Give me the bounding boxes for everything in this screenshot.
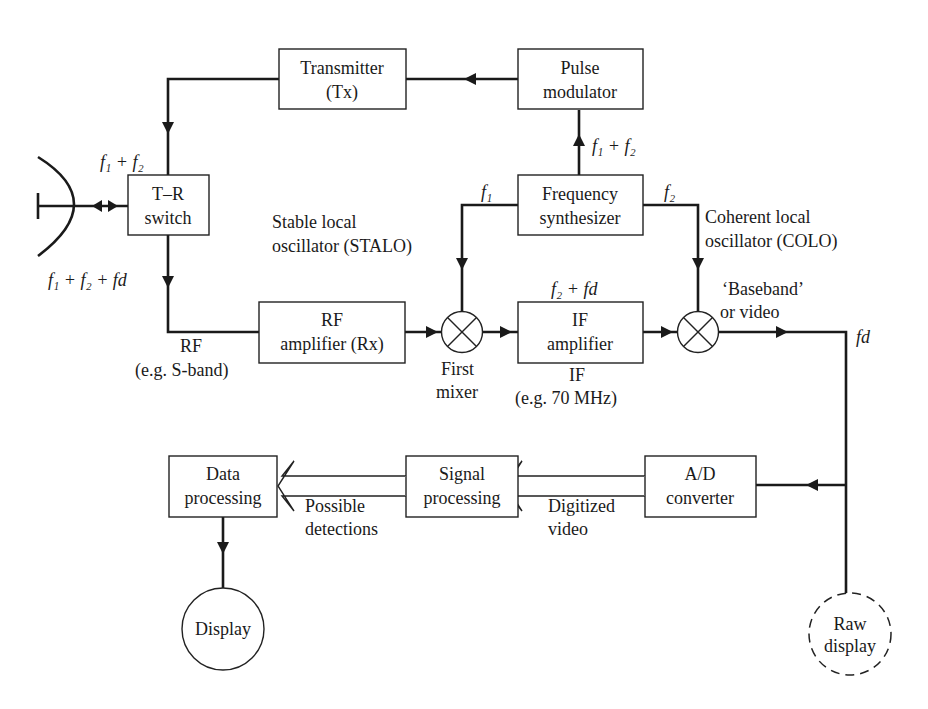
- label-mixer-line1: First: [441, 359, 474, 379]
- first-mixer-icon: [442, 312, 483, 353]
- svg-text:A/D: A/D: [685, 464, 716, 484]
- svg-text:synthesizer: synthesizer: [540, 208, 621, 228]
- raw-display-circle: Raw display: [809, 593, 891, 675]
- label-tx-frequency: f₁ + f₂: [100, 152, 144, 172]
- svg-text:Frequency: Frequency: [542, 184, 618, 204]
- label-f2: f₂: [664, 182, 675, 202]
- svg-text:Display: Display: [195, 619, 251, 639]
- label-if-line1: IF: [569, 365, 585, 385]
- svg-text:RF: RF: [321, 310, 343, 330]
- label-detections-line1: Possible: [305, 496, 365, 516]
- label-synth-frequency: f₁ + f₂: [592, 136, 636, 156]
- display-circle: Display: [182, 588, 264, 670]
- signal-processing-block: Signal processing: [406, 456, 518, 517]
- label-colo-line1: Coherent local: [705, 207, 810, 227]
- svg-text:display: display: [824, 636, 876, 656]
- second-mixer-icon: [678, 312, 719, 353]
- svg-text:IF: IF: [572, 310, 588, 330]
- label-f1: f₁: [481, 182, 492, 202]
- svg-text:processing: processing: [185, 488, 262, 508]
- label-if-frequency: f₂ + fd: [551, 279, 598, 299]
- pulse-modulator-block: Pulse modulator: [518, 49, 643, 109]
- svg-text:switch: switch: [145, 208, 192, 228]
- svg-text:Pulse: Pulse: [560, 58, 599, 78]
- label-stalo-line1: Stable local: [272, 212, 356, 232]
- label-doppler: fd: [856, 327, 871, 347]
- label-mixer-line2: mixer: [436, 382, 478, 402]
- label-rx-frequency: f₁ + f₂ + fd: [48, 270, 128, 290]
- rf-amplifier-block: RF amplifier (Rx): [259, 302, 405, 363]
- svg-text:T–R: T–R: [152, 184, 184, 204]
- svg-text:Data: Data: [206, 464, 240, 484]
- label-stalo-line2: oscillator (STALO): [272, 236, 412, 257]
- label-baseband-line2: or video: [720, 302, 779, 322]
- label-if-line2: (e.g. 70 MHz): [515, 388, 617, 409]
- svg-text:Signal: Signal: [439, 464, 485, 484]
- svg-text:converter: converter: [666, 488, 734, 508]
- svg-text:Raw: Raw: [834, 614, 867, 634]
- data-processing-block: Data processing: [169, 456, 277, 517]
- label-rf-line1: RF: [180, 336, 202, 356]
- tr-switch-block: T–R switch: [128, 175, 209, 235]
- svg-text:processing: processing: [424, 488, 501, 508]
- svg-text:(Tx): (Tx): [326, 82, 358, 103]
- svg-text:amplifier (Rx): amplifier (Rx): [280, 334, 383, 355]
- svg-text:modulator: modulator: [543, 82, 617, 102]
- label-digitized-line1: Digitized: [548, 496, 615, 516]
- ad-converter-block: A/D converter: [645, 456, 756, 517]
- label-digitized-line2: video: [548, 519, 588, 539]
- frequency-synthesizer-block: Frequency synthesizer: [518, 175, 643, 235]
- if-amplifier-block: IF amplifier: [518, 302, 643, 363]
- radar-block-diagram: Transmitter (Tx) Pulse modulator T–R swi…: [0, 0, 928, 709]
- label-detections-line2: detections: [305, 519, 378, 539]
- label-rf-line2: (e.g. S-band): [135, 360, 228, 381]
- svg-text:amplifier: amplifier: [547, 334, 613, 354]
- transmitter-block: Transmitter (Tx): [279, 49, 406, 109]
- svg-text:Transmitter: Transmitter: [300, 58, 383, 78]
- label-colo-line2: oscillator (COLO): [705, 231, 837, 252]
- label-baseband-line1: ‘Baseband’: [722, 279, 804, 299]
